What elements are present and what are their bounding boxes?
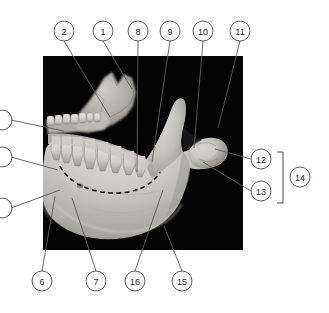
callout-7-label: 7 (93, 277, 98, 287)
callout-2[interactable]: 2 (54, 21, 74, 41)
callout-left-middle[interactable] (0, 147, 12, 167)
callout-8[interactable]: 8 (128, 21, 148, 41)
callout-16[interactable]: 16 (125, 271, 145, 291)
anatomy-figure: 2 1 8 9 10 11 (0, 0, 329, 313)
callout-9[interactable]: 9 (160, 21, 180, 41)
callout-6-label: 6 (39, 277, 44, 287)
callout-8-label: 8 (135, 27, 140, 37)
callout-11-label: 11 (235, 27, 244, 37)
figure-canvas: 2 1 8 9 10 11 (0, 0, 329, 313)
mandible-specimen (42, 56, 243, 250)
callout-15[interactable]: 15 (172, 271, 192, 291)
callout-12-label: 12 (256, 155, 266, 165)
callout-14-label: 14 (295, 173, 305, 183)
callout-12[interactable]: 12 (251, 149, 271, 169)
specimen-photograph (42, 56, 243, 250)
callout-left-lower[interactable] (0, 198, 12, 218)
callout-10-label: 10 (198, 27, 208, 37)
callout-16-label: 16 (130, 277, 140, 287)
callout-13[interactable]: 13 (251, 181, 271, 201)
callout-6[interactable]: 6 (32, 271, 52, 291)
callout-14[interactable]: 14 (290, 167, 310, 187)
grouping-bracket (277, 152, 283, 203)
callout-7[interactable]: 7 (86, 271, 106, 291)
callout-1-label: 1 (100, 27, 105, 37)
callout-15-label: 15 (177, 277, 187, 287)
callout-10[interactable]: 10 (193, 21, 213, 41)
callout-1[interactable]: 1 (93, 21, 113, 41)
callout-2-label: 2 (61, 27, 66, 37)
callout-9-label: 9 (167, 27, 172, 37)
callout-13-label: 13 (256, 187, 266, 197)
callout-left-upper[interactable] (0, 110, 12, 130)
callout-11[interactable]: 11 (230, 21, 250, 41)
